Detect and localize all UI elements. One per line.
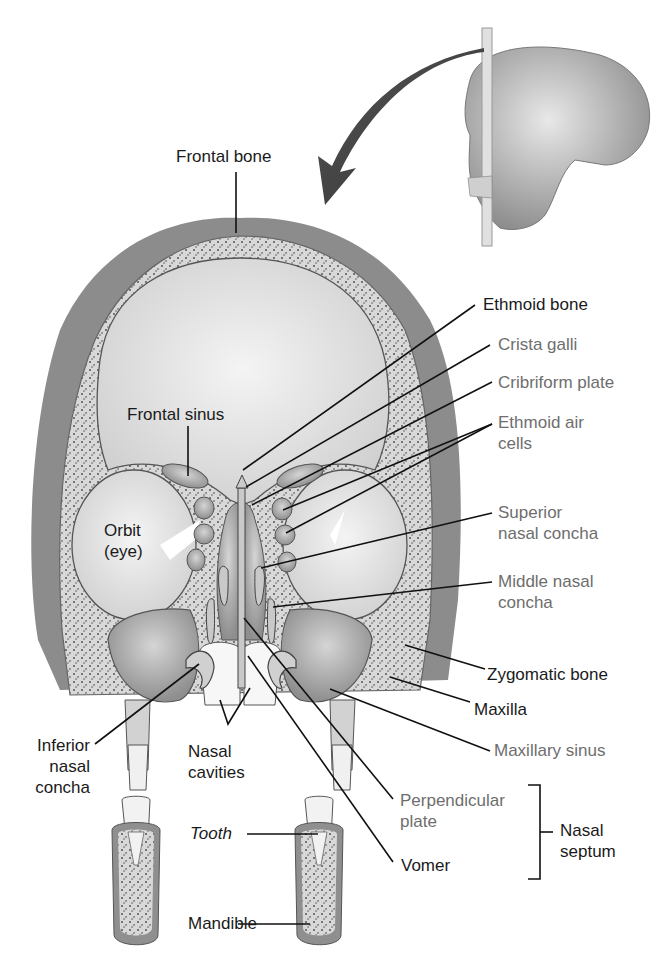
- label-crista-galli: Crista galli: [498, 334, 577, 355]
- label-maxilla: Maxilla: [474, 699, 527, 720]
- label-superior-nasal-concha: Superior nasal concha: [498, 502, 598, 544]
- label-cribriform-plate: Cribriform plate: [498, 372, 614, 393]
- label-perpendicular-plate: Perpendicular plate: [400, 790, 505, 832]
- nasal-septum-shape: [238, 488, 245, 688]
- coronal-section: [31, 218, 461, 705]
- inset-skull: [465, 28, 650, 246]
- label-orbit: Orbit (eye): [104, 520, 143, 562]
- label-frontal-bone: Frontal bone: [176, 146, 271, 167]
- cutting-plane: [482, 28, 492, 246]
- label-tooth: Tooth: [190, 823, 232, 844]
- label-nasal-septum: Nasal septum: [560, 820, 616, 862]
- diagram-artwork: [0, 0, 660, 962]
- label-vomer: Vomer: [401, 855, 450, 876]
- label-ethmoid-bone: Ethmoid bone: [483, 294, 588, 315]
- label-nasal-cavities: Nasal cavities: [188, 741, 245, 783]
- curved-arrow-icon: [318, 48, 484, 205]
- label-inferior-nasal-concha: Inferior nasal concha: [18, 735, 90, 798]
- skull-coronal-section-diagram: Frontal bone Ethmoid bone Crista galli C…: [0, 0, 660, 962]
- label-middle-nasal-concha: Middle nasal concha: [498, 571, 593, 613]
- label-mandible: Mandible: [188, 913, 257, 934]
- label-frontal-sinus: Frontal sinus: [127, 404, 224, 425]
- label-ethmoid-air-cells: Ethmoid air cells: [498, 412, 584, 454]
- label-maxillary-sinus: Maxillary sinus: [494, 740, 605, 761]
- label-zygomatic-bone: Zygomatic bone: [487, 664, 608, 685]
